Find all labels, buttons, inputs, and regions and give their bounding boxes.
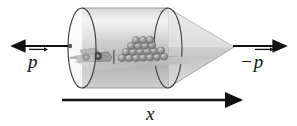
physics-figure: p − p x xyxy=(0,0,297,126)
momentum-right-symbol: p xyxy=(254,51,264,72)
vector-p-left: p xyxy=(28,52,38,71)
momentum-left-symbol: p xyxy=(28,51,38,72)
momentum-left-label: p xyxy=(28,52,38,71)
cylinder-left-cap xyxy=(68,8,96,88)
vertical-post xyxy=(113,50,115,64)
vector-p-right: p xyxy=(254,52,264,71)
sphere-row-top xyxy=(132,36,153,44)
axis-x-label: x xyxy=(146,104,154,123)
left-momentum-arrow xyxy=(12,44,72,48)
momentum-right-label: − p xyxy=(240,52,263,71)
minus-sign: − xyxy=(240,51,253,72)
